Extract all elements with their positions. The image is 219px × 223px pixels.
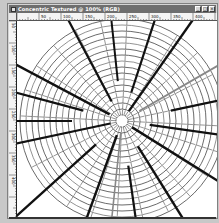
title-bar[interactable]: Concentric Textured @ 100% (RGB) _ □ ×	[9, 5, 216, 13]
svg-text:150: 150	[85, 14, 93, 19]
svg-text:250: 250	[11, 111, 16, 119]
svg-text:400: 400	[195, 14, 203, 19]
svg-text:50: 50	[41, 14, 47, 19]
ruler-origin[interactable]	[9, 13, 17, 21]
vertical-ruler[interactable]: 50100150200250300350400	[9, 21, 17, 217]
svg-text:300: 300	[151, 14, 159, 19]
svg-text:400: 400	[11, 177, 16, 185]
window-title: Concentric Textured @ 100% (RGB)	[18, 5, 120, 13]
document-icon	[11, 7, 16, 12]
svg-text:150: 150	[11, 67, 16, 75]
svg-text:100: 100	[11, 45, 16, 53]
svg-text:350: 350	[173, 14, 181, 19]
svg-text:100: 100	[63, 14, 71, 19]
window-controls: _ □ ×	[195, 6, 215, 12]
image-canvas[interactable]	[17, 21, 217, 217]
svg-text:350: 350	[11, 155, 16, 163]
svg-text:250: 250	[129, 14, 137, 19]
horizontal-ruler-ticks: 50100150200250300350400	[17, 13, 217, 21]
document-window[interactable]: Concentric Textured @ 100% (RGB) _ □ × 5…	[7, 3, 218, 219]
maximize-button[interactable]: □	[202, 6, 208, 12]
window-bottom-edge	[9, 217, 216, 219]
vertical-ruler-ticks: 50100150200250300350400	[9, 21, 17, 217]
svg-text:200: 200	[107, 14, 115, 19]
close-button[interactable]: ×	[209, 6, 215, 12]
svg-text:300: 300	[11, 133, 16, 141]
concentric-artwork	[17, 21, 217, 217]
svg-text:200: 200	[11, 89, 16, 97]
horizontal-ruler[interactable]: 50100150200250300350400	[17, 13, 217, 21]
svg-text:50: 50	[11, 23, 16, 29]
minimize-button[interactable]: _	[195, 6, 201, 12]
